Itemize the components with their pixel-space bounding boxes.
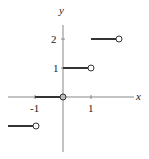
- open-point: [88, 65, 94, 71]
- open-point: [116, 36, 122, 42]
- open-point-origin: [60, 94, 66, 100]
- x-tick-label-neg1: -1: [30, 102, 39, 114]
- step-function-plot: y x -1 1 1 2: [0, 0, 149, 159]
- x-axis-label: x: [135, 90, 141, 102]
- y-tick-label-2: 2: [51, 33, 57, 45]
- y-axis-label: y: [58, 4, 64, 16]
- y-tick-label-1: 1: [53, 62, 59, 74]
- x-tick-label-1: 1: [88, 102, 94, 114]
- step-series: [8, 36, 122, 129]
- open-point: [33, 123, 39, 129]
